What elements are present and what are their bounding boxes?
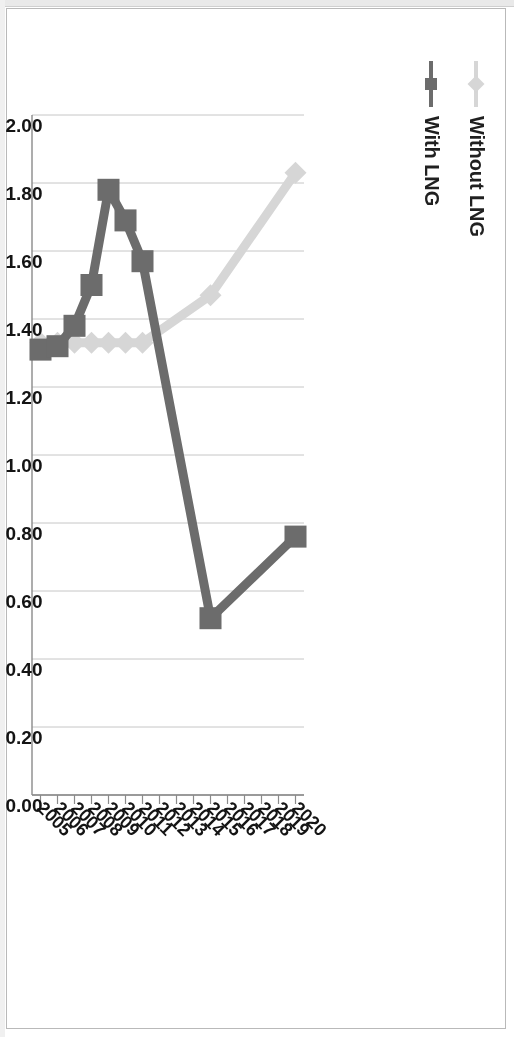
- data-point-marker[interactable]: [98, 178, 120, 200]
- value-tick-label: 1.80: [6, 183, 43, 205]
- scanned-page: Without LNG With LNG 2.001.801.601.401.2…: [0, 0, 514, 1037]
- series-line: [41, 189, 296, 617]
- legend-item-with-lng[interactable]: With LNG: [420, 61, 443, 237]
- chart-legend: Without LNG With LNG: [420, 61, 488, 237]
- legend-item-without-lng[interactable]: Without LNG: [465, 61, 488, 237]
- rotated-chart-container: Without LNG With LNG 2.001.801.601.401.2…: [14, 19, 500, 1019]
- line-chart: Without LNG With LNG 2.001.801.601.401.2…: [14, 19, 500, 1019]
- legend-swatch-with-lng: [427, 61, 437, 107]
- data-point-marker[interactable]: [115, 209, 137, 231]
- data-point-marker[interactable]: [200, 607, 222, 629]
- data-point-marker[interactable]: [132, 250, 154, 272]
- data-point-marker[interactable]: [47, 335, 69, 357]
- scan-edge-left: [0, 0, 5, 1037]
- value-tick-label: 0.60: [6, 591, 43, 613]
- scan-edge-top: [0, 0, 514, 7]
- legend-label-without-lng: Without LNG: [465, 116, 488, 237]
- data-point-marker[interactable]: [64, 314, 86, 336]
- value-tick-label: 0.80: [6, 523, 43, 545]
- value-tick-label: 0.40: [6, 659, 43, 681]
- plot-area: [32, 115, 304, 795]
- legend-label-with-lng: With LNG: [420, 116, 443, 206]
- value-tick-label: 1.20: [6, 387, 43, 409]
- data-point-marker[interactable]: [81, 274, 103, 296]
- value-tick-label: 1.40: [6, 319, 43, 341]
- value-tick-label: 0.20: [6, 727, 43, 749]
- data-point-marker[interactable]: [285, 525, 307, 547]
- value-tick-label: 2.00: [6, 115, 43, 137]
- plot-svg: [32, 115, 304, 795]
- value-tick-label: 1.00: [6, 455, 43, 477]
- legend-swatch-without-lng: [472, 61, 482, 107]
- value-tick-label: 1.60: [6, 251, 43, 273]
